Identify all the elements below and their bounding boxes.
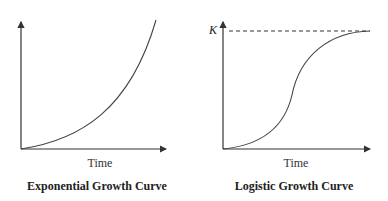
exponential-curve — [21, 20, 156, 149]
chart-caption: Logistic Growth Curve — [200, 179, 388, 194]
x-axis-label: Time — [256, 156, 336, 171]
chart-caption: Exponential Growth Curve — [0, 179, 194, 194]
k-label: K — [209, 23, 217, 38]
logistic-curve — [223, 31, 370, 149]
exponential-chart — [21, 20, 166, 149]
x-axis-label: Time — [60, 156, 140, 171]
logistic-chart — [223, 22, 370, 149]
